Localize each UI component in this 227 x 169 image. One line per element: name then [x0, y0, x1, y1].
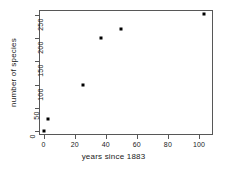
scatter-plot-figure: 020406080100050100150200250 years since …	[0, 0, 227, 169]
y-axis-tick-label: 50	[33, 111, 40, 119]
data-points-layer	[39, 10, 213, 135]
y-axis-title: number of species	[6, 0, 20, 145]
x-axis-tick	[199, 135, 200, 139]
x-axis-tick	[75, 135, 76, 139]
data-point	[47, 118, 50, 121]
data-point	[100, 37, 103, 40]
x-axis-tick	[44, 135, 45, 139]
y-axis-tick	[35, 38, 39, 39]
y-axis-tick	[35, 108, 39, 109]
x-axis-tick	[168, 135, 169, 139]
y-axis-tick	[35, 85, 39, 86]
data-point	[42, 129, 45, 132]
x-axis-tick-label: 80	[164, 141, 172, 148]
data-point	[202, 13, 205, 16]
x-axis-title: years since 1883	[0, 152, 227, 161]
y-axis-tick-label: 200	[37, 42, 44, 54]
x-axis-tick	[106, 135, 107, 139]
y-axis-tick	[35, 61, 39, 62]
data-point	[120, 27, 123, 30]
y-axis-tick	[35, 15, 39, 16]
y-axis-title-text: number of species	[9, 38, 18, 107]
x-axis-tick-label: 20	[71, 141, 79, 148]
x-axis-tick-label: 60	[133, 141, 141, 148]
y-axis-tick-label: 250	[37, 19, 44, 31]
x-axis-tick-label: 0	[42, 141, 46, 148]
x-axis-tick-label: 40	[102, 141, 110, 148]
y-axis-tick-label: 100	[37, 88, 44, 100]
data-point	[81, 83, 84, 86]
y-axis-tick-label: 0	[29, 134, 36, 138]
y-axis-tick-label: 150	[37, 65, 44, 77]
x-axis-tick-label: 100	[193, 141, 205, 148]
y-axis-tick	[35, 131, 39, 132]
x-axis-tick	[137, 135, 138, 139]
